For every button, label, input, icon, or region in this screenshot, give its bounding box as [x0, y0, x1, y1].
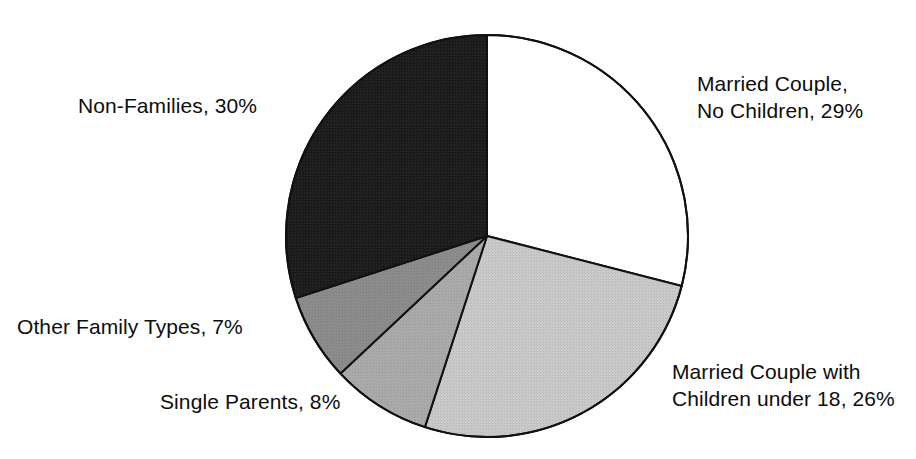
slice-label-line-1: Married Couple with: [672, 358, 895, 385]
slice-label-line-2: No Children, 29%: [697, 97, 863, 124]
pie-chart: Married Couple, No Children, 29% Married…: [0, 0, 916, 459]
slice-label-married-couple-no-children: Married Couple, No Children, 29%: [697, 70, 863, 124]
slice-label-line-1: Married Couple,: [697, 70, 863, 97]
slice-label-married-couple-with-children: Married Couple with Children under 18, 2…: [672, 358, 895, 412]
slice-label-line-1: Single Parents, 8%: [160, 388, 340, 415]
pie-slices: [286, 35, 688, 437]
slice-label-non-families: Non-Families, 30%: [78, 92, 257, 119]
slice-label-line-1: Other Family Types, 7%: [17, 313, 243, 340]
slice-label-line-2: Children under 18, 26%: [672, 385, 895, 412]
slice-label-line-1: Non-Families, 30%: [78, 92, 257, 119]
slice-label-other-family-types: Other Family Types, 7%: [17, 313, 243, 340]
slice-label-single-parents: Single Parents, 8%: [160, 388, 340, 415]
